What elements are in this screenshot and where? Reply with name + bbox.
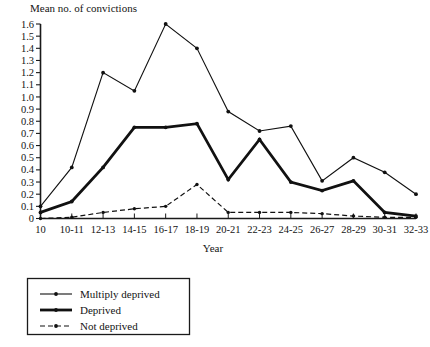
data-point-marker [414,216,417,219]
data-point-marker [39,217,42,220]
series-layer [39,22,418,220]
x-tick-label: 26-27 [310,224,335,235]
y-tick-label: 0.7 [21,128,34,139]
data-point-marker [289,124,293,128]
chart-container: Mean no. of convictions 00.10.20.30.40.5… [0,0,430,347]
x-tick-label: 12-13 [91,224,116,235]
data-point-marker [133,207,136,210]
y-tick-label: 1.0 [21,92,34,103]
data-point-marker [132,89,136,93]
y-tick-label: 0.4 [21,164,35,175]
data-point-marker [195,122,199,126]
data-point-marker [258,129,262,133]
x-tick-label: 22-23 [247,224,272,235]
data-point-marker [289,211,292,214]
y-axis-title: Mean no. of convictions [30,2,137,14]
y-tick-label: 1.6 [21,19,34,30]
x-tick-label: 18-19 [185,224,210,235]
x-tick-label: 10 [35,224,46,235]
y-tick-label: 0.5 [21,152,34,163]
data-point-marker [352,179,356,183]
y-tick-label: 0.2 [21,189,34,200]
data-point-marker [383,216,386,219]
x-tick-label: 16-17 [153,224,178,235]
legend-label: Deprived [80,304,121,316]
data-point-marker [70,216,73,219]
data-point-marker [101,71,105,75]
y-tick-label: 1.4 [21,43,35,54]
data-point-marker [320,179,324,183]
legend-swatch-marker [54,308,58,312]
data-point-marker [39,204,43,208]
data-point-marker [132,125,136,129]
data-point-marker [320,189,324,193]
y-tick-label: 0.3 [21,177,34,188]
y-tick-label: 1.3 [21,55,34,66]
data-point-marker [383,211,387,215]
legend-label: Not deprived [80,320,138,332]
line-chart: Mean no. of convictions 00.10.20.30.40.5… [0,0,430,347]
data-point-marker [164,205,167,208]
data-point-marker [352,156,356,160]
y-tick-label: 0.6 [21,140,34,151]
x-tick-label: 24-25 [279,224,304,235]
data-point-marker [70,200,74,204]
legend-swatch-marker [54,292,58,296]
y-tick-label: 0.9 [21,104,34,115]
y-axis-ticks: 00.10.20.30.40.50.60.70.80.91.01.11.21.3… [21,19,41,225]
data-point-marker [352,214,355,217]
data-point-marker [195,46,199,50]
data-point-marker [414,192,418,196]
y-tick-label: 0.1 [21,201,34,212]
y-tick-label: 0 [29,213,34,224]
x-tick-label: 30-31 [372,224,397,235]
y-tick-label: 1.2 [21,67,34,78]
x-tick-label: 10-11 [60,224,84,235]
x-tick-label: 32-33 [404,224,429,235]
data-point-marker [227,211,230,214]
x-tick-label: 14-15 [122,224,147,235]
data-point-marker [289,180,293,184]
data-point-marker [383,170,387,174]
data-point-marker [226,178,230,182]
x-axis-title: Year [203,242,224,254]
legend-swatch-marker [54,324,58,328]
y-tick-label: 0.8 [21,116,34,127]
data-point-marker [164,22,168,26]
data-point-marker [258,138,262,142]
data-point-marker [39,211,43,215]
data-point-marker [101,166,105,170]
data-point-marker [70,166,74,170]
y-tick-label: 1.5 [21,31,34,42]
data-point-marker [195,183,198,186]
data-point-marker [101,211,104,214]
series-line-deprived [41,124,417,216]
data-point-marker [164,125,168,129]
legend-label: Multiply deprived [80,288,160,300]
y-tick-label: 1.1 [21,79,34,90]
data-point-marker [320,212,323,215]
data-point-marker [226,110,230,114]
x-tick-label: 20-21 [216,224,241,235]
data-point-marker [258,211,261,214]
x-tick-label: 28-29 [341,224,366,235]
